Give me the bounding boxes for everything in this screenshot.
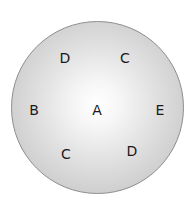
label-top-right: C [120,51,130,65]
label-center: A [92,103,102,117]
label-bottom-left: C [61,147,71,161]
label-top-left: D [60,51,71,65]
label-right: E [156,103,165,117]
label-left: B [29,103,39,117]
label-bottom-right: D [127,144,138,158]
